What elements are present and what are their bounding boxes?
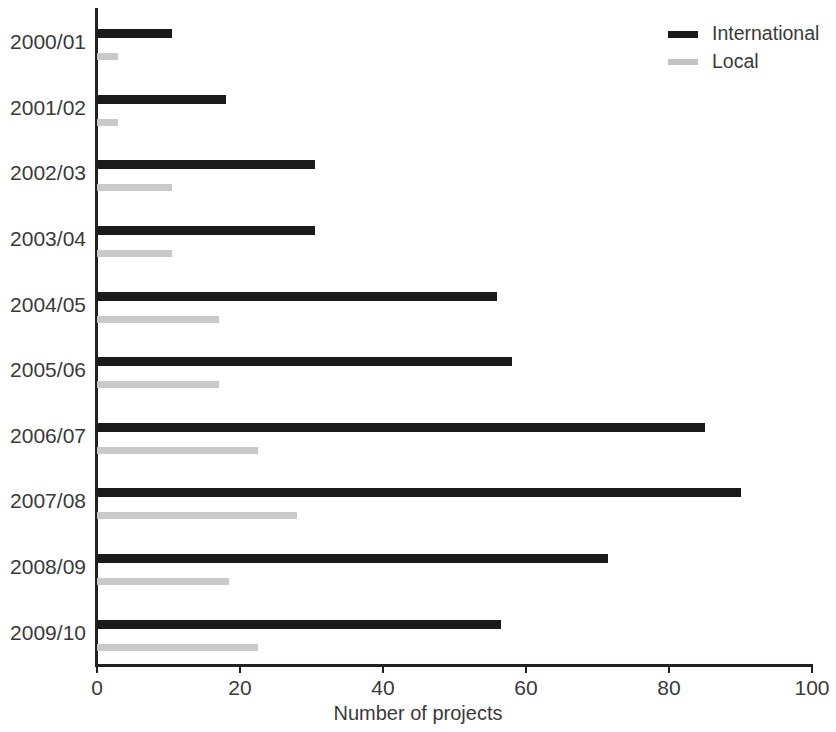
category-label-2006-07: 2006/07 — [10, 424, 86, 448]
bar-international-2000-01 — [97, 29, 172, 38]
bar-international-2009-10 — [97, 620, 501, 629]
bar-chart: International Local 020406080100 2000/01… — [0, 0, 836, 732]
category-label-2001-02: 2001/02 — [10, 96, 86, 120]
bar-local-2008-09 — [97, 578, 229, 585]
bar-local-2004-05 — [97, 316, 219, 323]
x-tick-100 — [811, 664, 813, 673]
x-axis-title: Number of projects — [0, 702, 836, 725]
x-tick-label-100: 100 — [794, 676, 829, 700]
bar-international-2001-02 — [97, 95, 226, 104]
x-tick-label-60: 60 — [514, 676, 537, 700]
category-label-2002-03: 2002/03 — [10, 161, 86, 185]
x-tick-20 — [239, 664, 241, 673]
category-label-2009-10: 2009/10 — [10, 621, 86, 645]
x-tick-label-20: 20 — [228, 676, 251, 700]
bar-local-2001-02 — [97, 119, 118, 126]
category-label-2000-01: 2000/01 — [10, 30, 86, 54]
bar-international-2005-06 — [97, 357, 512, 366]
category-label-2003-04: 2003/04 — [10, 227, 86, 251]
bar-local-2005-06 — [97, 381, 219, 388]
category-label-2004-05: 2004/05 — [10, 293, 86, 317]
bar-international-2003-04 — [97, 226, 315, 235]
bar-international-2004-05 — [97, 292, 497, 301]
x-tick-label-40: 40 — [371, 676, 394, 700]
bar-local-2003-04 — [97, 250, 172, 257]
bar-international-2008-09 — [97, 554, 608, 563]
bar-local-2009-10 — [97, 644, 258, 651]
x-tick-60 — [525, 664, 527, 673]
bar-local-2007-08 — [97, 512, 297, 519]
x-tick-80 — [668, 664, 670, 673]
x-tick-label-80: 80 — [657, 676, 680, 700]
bar-international-2006-07 — [97, 423, 705, 432]
category-label-2005-06: 2005/06 — [10, 358, 86, 382]
x-tick-40 — [382, 664, 384, 673]
x-tick-0 — [96, 664, 98, 673]
x-tick-label-0: 0 — [91, 676, 103, 700]
plot-area: 020406080100 2000/012001/022002/032003/0… — [97, 8, 812, 664]
bar-local-2000-01 — [97, 53, 118, 60]
category-axis-line — [95, 8, 98, 664]
category-label-2008-09: 2008/09 — [10, 555, 86, 579]
bar-international-2007-08 — [97, 488, 741, 497]
category-label-2007-08: 2007/08 — [10, 489, 86, 513]
bar-local-2002-03 — [97, 184, 172, 191]
bar-local-2006-07 — [97, 447, 258, 454]
bar-international-2002-03 — [97, 160, 315, 169]
value-axis-line — [95, 664, 812, 667]
